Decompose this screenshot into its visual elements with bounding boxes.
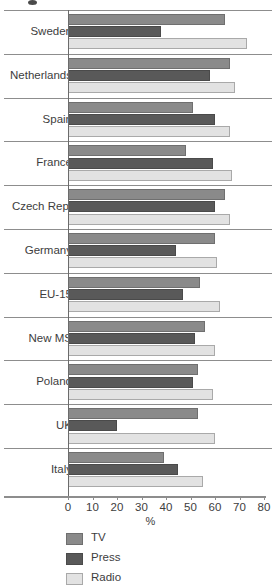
bar-radio-netherlands xyxy=(68,82,235,93)
group-separator-line xyxy=(4,98,272,99)
chart-group-row: Spain xyxy=(0,98,277,140)
bar-radio-eu-15 xyxy=(68,301,220,312)
bar-press-france xyxy=(68,158,213,169)
bar-radio-poland xyxy=(68,389,213,400)
bar-tv-spain xyxy=(68,102,193,113)
bar-radio-france xyxy=(68,170,232,181)
x-axis-line xyxy=(4,496,266,498)
legend-swatch-radio-icon xyxy=(66,573,83,585)
group-separator-line xyxy=(4,185,272,186)
bar-tv-poland xyxy=(68,364,198,375)
chart-group-row: Poland xyxy=(0,360,277,402)
bar-press-italy xyxy=(68,464,178,475)
bullet-marker-icon xyxy=(28,0,37,5)
chart-group-row: Sweden xyxy=(0,10,277,52)
legend-swatch-press-icon xyxy=(66,553,83,565)
bar-press-netherlands xyxy=(68,70,210,81)
category-label-eu-15: EU-15 xyxy=(0,288,72,300)
bar-chart: SwedenNetherlandsSpainFranceCzech Rep.Ge… xyxy=(0,0,277,585)
x-tick-mark xyxy=(215,496,216,500)
group-separator-line xyxy=(4,54,272,55)
group-separator-line xyxy=(4,273,272,274)
bar-radio-new-ms xyxy=(68,345,215,356)
bar-radio-italy xyxy=(68,476,203,487)
group-separator-line xyxy=(4,141,272,142)
bar-tv-france xyxy=(68,145,186,156)
bar-press-germany xyxy=(68,245,176,256)
category-label-czech-rep: Czech Rep. xyxy=(0,200,72,212)
bar-press-new-ms xyxy=(68,333,195,344)
bar-tv-czech-rep xyxy=(68,189,225,200)
x-tick-label-80: 80 xyxy=(249,501,277,513)
group-separator-line xyxy=(4,448,272,449)
chart-group-row: Czech Rep. xyxy=(0,185,277,227)
category-label-italy: Italy xyxy=(0,463,72,475)
bar-radio-spain xyxy=(68,126,230,137)
bar-press-sweden xyxy=(68,26,161,37)
category-label-spain: Spain xyxy=(0,113,72,125)
chart-group-row: EU-15 xyxy=(0,273,277,315)
category-label-uk: UK xyxy=(0,419,72,431)
group-separator-line xyxy=(4,229,272,230)
category-label-poland: Poland xyxy=(0,375,72,387)
group-separator-line xyxy=(4,360,272,361)
legend-label: TV xyxy=(91,531,106,543)
bar-press-spain xyxy=(68,114,215,125)
y-axis-line xyxy=(68,10,69,496)
x-tick-mark xyxy=(191,496,192,500)
x-axis-label: % xyxy=(0,515,277,527)
bar-press-czech-rep xyxy=(68,201,215,212)
bar-radio-germany xyxy=(68,257,217,268)
bar-press-uk xyxy=(68,420,117,431)
category-label-france: France xyxy=(0,156,72,168)
plot-area: SwedenNetherlandsSpainFranceCzech Rep.Ge… xyxy=(0,10,277,494)
x-tick-mark xyxy=(166,496,167,500)
x-tick-mark xyxy=(117,496,118,500)
bar-radio-uk xyxy=(68,433,215,444)
bar-tv-italy xyxy=(68,452,164,463)
bar-press-eu-15 xyxy=(68,289,183,300)
bar-tv-eu-15 xyxy=(68,277,200,288)
bar-radio-sweden xyxy=(68,38,247,49)
chart-group-row: Italy xyxy=(0,448,277,490)
chart-group-row: New MS xyxy=(0,317,277,359)
chart-group-row: Germany xyxy=(0,229,277,271)
x-tick-mark xyxy=(142,496,143,500)
x-tick-mark xyxy=(93,496,94,500)
chart-group-row: UK xyxy=(0,404,277,446)
x-tick-mark xyxy=(264,496,265,500)
bar-tv-germany xyxy=(68,233,215,244)
legend-item-press[interactable]: Press xyxy=(66,551,266,568)
x-tick-mark xyxy=(68,496,69,500)
bar-tv-uk xyxy=(68,408,198,419)
chart-group-row: Netherlands xyxy=(0,54,277,96)
category-label-new-ms: New MS xyxy=(0,332,72,344)
category-label-germany: Germany xyxy=(0,244,72,256)
group-separator-line xyxy=(4,404,272,405)
bar-press-poland xyxy=(68,377,193,388)
group-separator-line xyxy=(4,317,272,318)
bar-tv-new-ms xyxy=(68,321,205,332)
legend-swatch-tv-icon xyxy=(66,533,83,545)
bar-tv-sweden xyxy=(68,14,225,25)
group-separator-line xyxy=(4,10,272,11)
chart-group-row: France xyxy=(0,141,277,183)
legend-label: Radio xyxy=(91,571,121,583)
x-tick-mark xyxy=(240,496,241,500)
legend-item-tv[interactable]: TV xyxy=(66,531,266,548)
bar-tv-netherlands xyxy=(68,58,230,69)
chart-legend: TVPressRadio xyxy=(66,531,266,585)
legend-item-radio[interactable]: Radio xyxy=(66,571,266,585)
legend-label: Press xyxy=(91,551,120,563)
bar-radio-czech-rep xyxy=(68,214,230,225)
category-label-netherlands: Netherlands xyxy=(0,69,72,81)
category-label-sweden: Sweden xyxy=(0,25,72,37)
